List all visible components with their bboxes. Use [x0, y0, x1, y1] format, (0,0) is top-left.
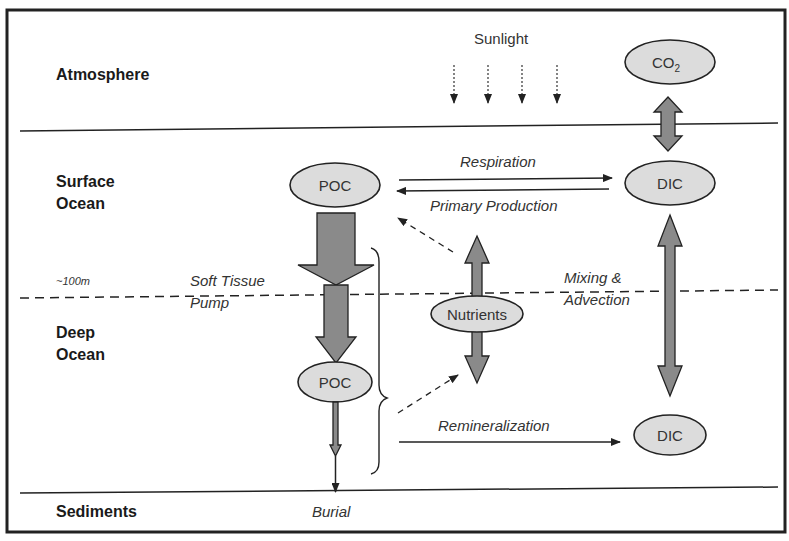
node-poc-deep: POC [298, 362, 372, 402]
node-dic-surface: DIC [625, 161, 715, 205]
layer-atmosphere: Atmosphere [56, 66, 149, 83]
primary-production-label: Primary Production [430, 197, 558, 214]
svg-text:DIC: DIC [657, 427, 683, 444]
svg-text:Nutrients: Nutrients [447, 306, 507, 323]
svg-text:POC: POC [319, 177, 352, 194]
layer-sediments: Sediments [56, 503, 137, 520]
remineralization-label: Remineralization [438, 417, 550, 434]
node-dic-deep: DIC [634, 415, 706, 455]
svg-text:DIC: DIC [657, 175, 683, 192]
mixing-label-2: Advection [563, 291, 630, 308]
burial-label: Burial [312, 503, 351, 520]
layer-surface-ocean-2: Ocean [56, 195, 105, 212]
layer-deep-ocean-1: Deep [56, 324, 95, 341]
depth-marker: ~100m [56, 275, 90, 287]
mixing-label-1: Mixing & [564, 269, 622, 286]
carbon-cycle-diagram: Atmosphere Surface Ocean ~100m Deep Ocea… [0, 0, 789, 541]
layer-surface-ocean-1: Surface [56, 173, 115, 190]
respiration-label: Respiration [460, 153, 536, 170]
soft-tissue-label-1: Soft Tissue [190, 272, 265, 289]
node-poc-surface: POC [290, 163, 380, 207]
soft-tissue-label-2: Pump [190, 294, 229, 311]
sunlight-label: Sunlight [474, 30, 529, 47]
node-nutrients: Nutrients [431, 296, 523, 332]
node-co2: CO2 [625, 40, 715, 84]
layer-deep-ocean-2: Ocean [56, 346, 105, 363]
svg-text:POC: POC [319, 374, 352, 391]
